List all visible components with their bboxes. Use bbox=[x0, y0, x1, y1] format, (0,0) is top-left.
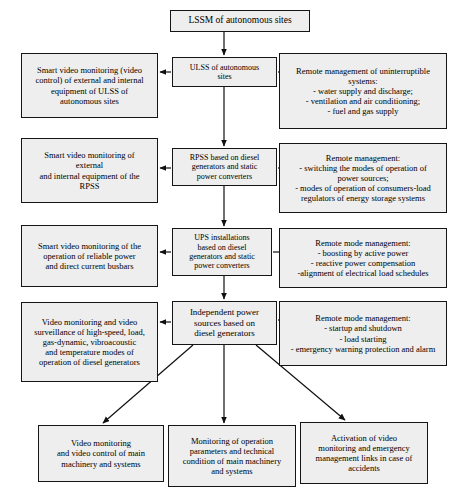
node-right-remote-mode-management-ups[interactable]: Remote mode management: - boosting by ac… bbox=[279, 228, 447, 288]
node-ulss[interactable]: ULSS of autonomous sites bbox=[172, 57, 277, 87]
flowchart-diagram: LSSM of autonomous sites ULSS of autonom… bbox=[0, 0, 459, 497]
node-right-remote-management[interactable]: Remote management: - switching the modes… bbox=[279, 143, 447, 213]
node-rpss[interactable]: RPSS based on diesel generators and stat… bbox=[172, 148, 277, 186]
node-right-uninterruptible-management[interactable]: Remote management of uninterruptible sys… bbox=[279, 53, 447, 129]
node-bottom-activation[interactable]: Activation of video monitoring and emerg… bbox=[300, 422, 428, 484]
node-root[interactable]: LSSM of autonomous sites bbox=[170, 10, 310, 32]
node-right-remote-mode-management-ips[interactable]: Remote mode management: - startup and sh… bbox=[279, 301, 447, 366]
node-left-rpss-video-monitoring[interactable]: Smart video monitoring of external and i… bbox=[21, 138, 158, 203]
node-bottom-video-control[interactable]: Video monitoring and video control of ma… bbox=[38, 425, 164, 482]
node-left-diesel-video-monitoring[interactable]: Video monitoring and video surveillance … bbox=[21, 302, 158, 382]
node-bottom-operation-parameters[interactable]: Monitoring of operation parameters and t… bbox=[168, 425, 296, 487]
node-independent-power-sources[interactable]: Independent power sources based on diese… bbox=[172, 301, 277, 345]
node-left-ulss-video-monitoring[interactable]: Smart video monitoring (video control) o… bbox=[21, 53, 158, 118]
node-left-ups-video-monitoring[interactable]: Smart video monitoring of the operation … bbox=[21, 225, 158, 287]
node-ups[interactable]: UPS installations based on diesel genera… bbox=[172, 228, 272, 276]
